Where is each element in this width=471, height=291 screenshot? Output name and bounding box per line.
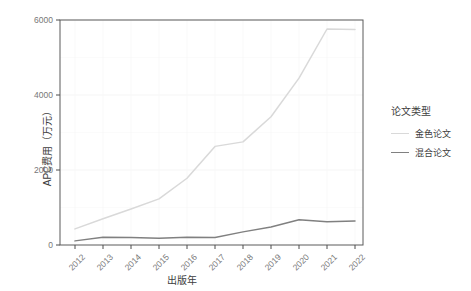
- legend-key-swatch: [391, 128, 409, 139]
- legend-items: 金色论文混合论文: [391, 127, 471, 159]
- legend-item-1[interactable]: 混合论文: [391, 146, 471, 159]
- legend-label: 金色论文: [415, 127, 451, 140]
- legend: 论文类型 金色论文混合论文: [391, 103, 471, 165]
- legend-item-0[interactable]: 金色论文: [391, 127, 471, 140]
- line-chart: APC费用（万元） 出版年 0200040006000 201220132014…: [0, 0, 471, 291]
- legend-key-swatch: [391, 147, 409, 158]
- legend-label: 混合论文: [415, 146, 451, 159]
- legend-title: 论文类型: [391, 103, 471, 118]
